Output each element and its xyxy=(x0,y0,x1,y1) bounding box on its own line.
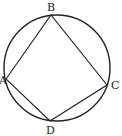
label-c: C xyxy=(111,79,119,92)
label-d: D xyxy=(46,124,55,136)
label-b: B xyxy=(47,1,55,14)
cyclic-quadrilateral-diagram: B A C D xyxy=(0,0,122,136)
label-a: A xyxy=(0,74,8,87)
quadrilateral-abcd xyxy=(6,15,107,121)
